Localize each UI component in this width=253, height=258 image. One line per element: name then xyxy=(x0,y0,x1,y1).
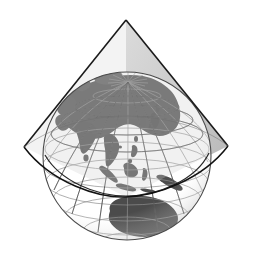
figure-root: Conic projection developable surface ove… xyxy=(0,0,253,258)
conic-projection-diagram xyxy=(0,0,253,258)
